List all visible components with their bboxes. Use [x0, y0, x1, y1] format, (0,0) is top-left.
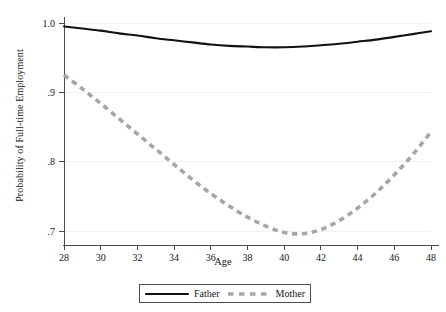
legend-swatch-dashed-line	[227, 289, 271, 299]
chart-legend: Father Mother	[139, 284, 311, 303]
gridlines-group	[64, 23, 431, 231]
legend-swatch-solid-line	[145, 289, 189, 299]
chart-figure: Probability of Full-time Employment .7.8…	[0, 0, 446, 312]
legend-label-mother: Mother	[276, 289, 305, 299]
y-tick-label: 1.0	[43, 18, 56, 29]
y-tick-label: .9	[48, 87, 56, 98]
series-line-mother	[64, 75, 431, 234]
legend-item-mother[interactable]: Mother	[227, 289, 305, 299]
legend-label-father: Father	[194, 289, 220, 299]
data-series-group	[64, 26, 431, 233]
y-ticks-group: .7.8.91.0	[43, 18, 65, 237]
y-tick-label: .8	[48, 156, 56, 167]
axes-group	[63, 17, 439, 245]
series-line-father	[64, 26, 431, 47]
y-tick-label: .7	[48, 226, 56, 237]
x-axis-label: Age	[0, 256, 446, 267]
legend-item-father[interactable]: Father	[145, 289, 220, 299]
